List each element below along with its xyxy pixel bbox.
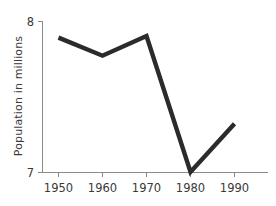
chart-canvas: 8 7 1950 1960 1970 1980 1990 Population … bbox=[0, 0, 276, 206]
population-line-chart: 8 7 1950 1960 1970 1980 1990 Population … bbox=[0, 0, 276, 206]
y-tick-label-7: 7 bbox=[27, 166, 34, 180]
x-tick-label-1980: 1980 bbox=[176, 181, 205, 195]
x-tick-label-1990: 1990 bbox=[220, 181, 249, 195]
y-tick-label-8: 8 bbox=[27, 15, 34, 29]
x-tick-label-1960: 1960 bbox=[88, 181, 117, 195]
y-axis-title: Population in millions bbox=[12, 36, 25, 157]
x-tick-label-1970: 1970 bbox=[132, 181, 161, 195]
data-series-line bbox=[59, 36, 235, 172]
x-tick-label-1950: 1950 bbox=[44, 181, 73, 195]
